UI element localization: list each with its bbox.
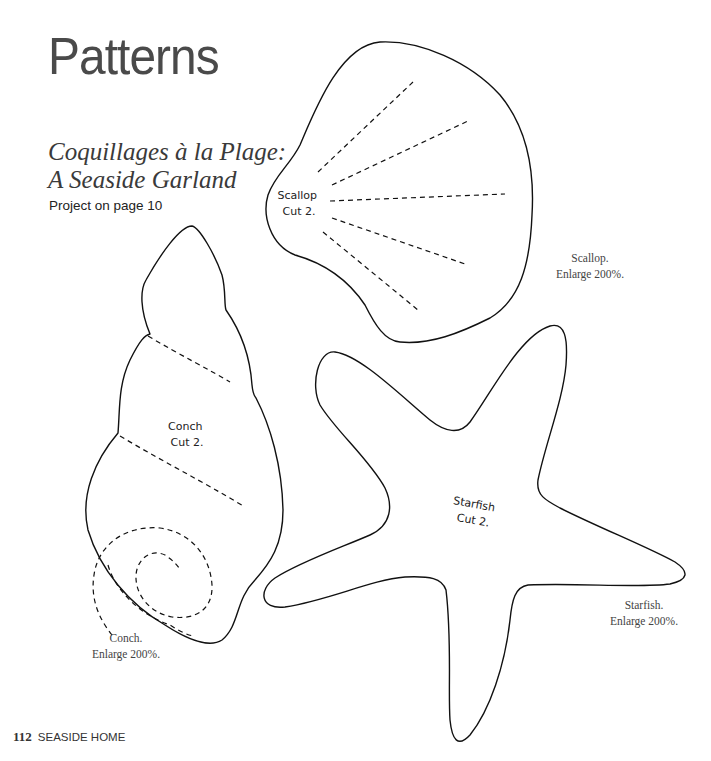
starfish-outline <box>264 325 685 741</box>
starfish-label: Starfish Cut 2. <box>450 494 500 530</box>
scallop-ribs <box>318 82 505 310</box>
conch-dashes <box>93 336 245 636</box>
starfish-caption-enlarge: Enlarge 200%. <box>594 613 694 629</box>
page-footer: 112SEASIDE HOME <box>13 729 125 745</box>
scallop-caption: Scallop. Enlarge 200%. <box>540 250 640 282</box>
starfish-caption: Starfish. Enlarge 200%. <box>594 597 694 629</box>
conch-caption-enlarge: Enlarge 200%. <box>76 646 176 662</box>
page-number: 112 <box>13 729 32 744</box>
scallop-caption-name: Scallop. <box>540 250 640 266</box>
conch-caption-name: Conch. <box>76 630 176 646</box>
starfish-caption-name: Starfish. <box>594 597 694 613</box>
conch-caption: Conch. Enlarge 200%. <box>76 630 176 662</box>
scallop-label: Scallop Cut 2. <box>277 189 320 218</box>
conch-outline <box>86 226 283 643</box>
scallop-caption-enlarge: Enlarge 200%. <box>540 266 640 282</box>
conch-label: Conch Cut 2. <box>168 420 206 449</box>
book-title: SEASIDE HOME <box>38 731 126 743</box>
